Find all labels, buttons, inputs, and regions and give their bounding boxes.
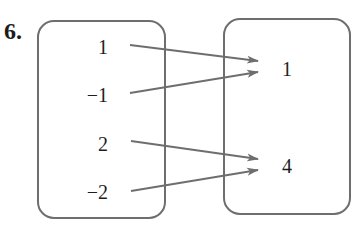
mapping-diagram: 1 −1 2 −2 1 4 — [0, 0, 358, 232]
arrow-2-to-4 — [131, 141, 258, 159]
range-value-1: 1 — [282, 58, 292, 80]
arrow-neg1-to-1 — [130, 72, 258, 93]
arrow-neg2-to-4 — [131, 170, 258, 191]
arrow-1-to-1 — [130, 45, 258, 61]
domain-value-2: 2 — [98, 133, 108, 155]
domain-value-neg2: −2 — [87, 181, 108, 203]
range-box — [224, 19, 350, 214]
domain-value-1: 1 — [98, 36, 108, 58]
domain-value-neg1: −1 — [87, 84, 108, 106]
range-value-4: 4 — [282, 155, 292, 177]
